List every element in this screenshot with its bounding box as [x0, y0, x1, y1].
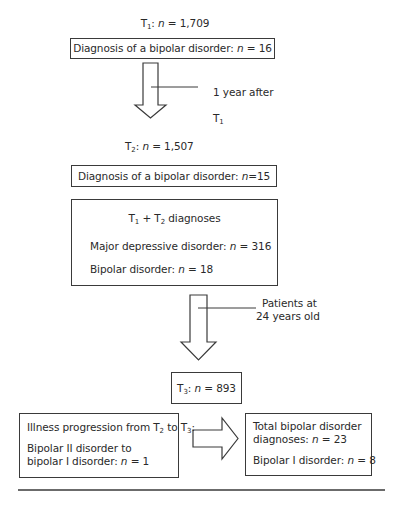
- progression-line2-text: bipolar I disorder:: [27, 455, 121, 467]
- t1-label: T1: n = 1,709: [120, 17, 230, 30]
- progression-line2: bipolar I disorder: n = 1: [27, 455, 149, 468]
- total-bipolar-box: Total bipolar disorder diagnoses: n = 23…: [245, 413, 372, 476]
- combined-diagnoses-box: T1 + T2 diagnoses Major depressive disor…: [71, 199, 278, 286]
- total-line1: Total bipolar disorder: [253, 420, 361, 433]
- t2-label: T2: n = 1,507: [125, 140, 194, 153]
- mdd-n-value: = 316: [236, 240, 271, 252]
- progression-title-a: Illness progression from T: [27, 421, 160, 433]
- t1-diagnosis-text: Diagnosis of a bipolar disorder:: [73, 42, 237, 54]
- t3-box: T3: n = 893: [171, 372, 242, 404]
- progression-box: Illness progression from T2 to T3: Bipol…: [19, 413, 179, 478]
- bd-line: Bipolar disorder: n = 18: [90, 263, 213, 276]
- total-line2: diagnoses: n = 23: [253, 433, 347, 446]
- mdd-text: Major depressive disorder:: [90, 240, 230, 252]
- arrow1-note-line2: T1: [213, 112, 224, 125]
- bd-text: Bipolar disorder:: [90, 263, 178, 275]
- t3-n-value: = 893: [201, 382, 236, 394]
- t2-diagnosis-text: Diagnosis of a bipolar disorder:: [78, 170, 242, 182]
- progression-line1: Bipolar II disorder to: [27, 442, 131, 455]
- bipolar-i-text: Bipolar I disorder:: [253, 454, 347, 466]
- arrow2-note-line2: 24 years old: [256, 310, 320, 323]
- arrow2-note-line1: Patients at: [262, 297, 317, 310]
- arrow1-note-line1: 1 year after: [213, 86, 273, 99]
- right-arrow: [193, 418, 238, 459]
- t2-n-value: = 1,507: [149, 140, 194, 152]
- total-n-value: = 23: [319, 433, 347, 445]
- progression-n-value: = 1: [127, 455, 149, 467]
- t1-n-value: = 1,709: [165, 17, 210, 29]
- t1-diagnosis-n-value: = 16: [243, 42, 271, 54]
- total-line2-text: diagnoses:: [253, 433, 312, 445]
- t2-diagnosis-box: Diagnosis of a bipolar disorder: n=15: [71, 165, 277, 187]
- combined-title-rest: diagnoses: [165, 212, 221, 224]
- t2-diagnosis-n-value: =15: [248, 170, 270, 182]
- total-line3: Bipolar I disorder: n = 8: [253, 454, 376, 467]
- mdd-line: Major depressive disorder: n = 316: [90, 240, 271, 253]
- progression-title: Illness progression from T2 to T3:: [27, 421, 195, 434]
- arrow1-note-sub: 1: [219, 118, 223, 126]
- t1-diagnosis-box: Diagnosis of a bipolar disorder: n = 16: [70, 38, 275, 59]
- combined-title: T1 + T2 diagnoses: [72, 212, 277, 225]
- down-arrow-2: [181, 295, 216, 360]
- down-arrow-1: [135, 63, 166, 118]
- bipolar-i-n-value: = 8: [354, 454, 376, 466]
- progression-title-end: :: [191, 421, 194, 433]
- bd-n-value: = 18: [185, 263, 213, 275]
- combined-title-plus: + T: [139, 212, 161, 224]
- progression-title-mid: to T: [164, 421, 187, 433]
